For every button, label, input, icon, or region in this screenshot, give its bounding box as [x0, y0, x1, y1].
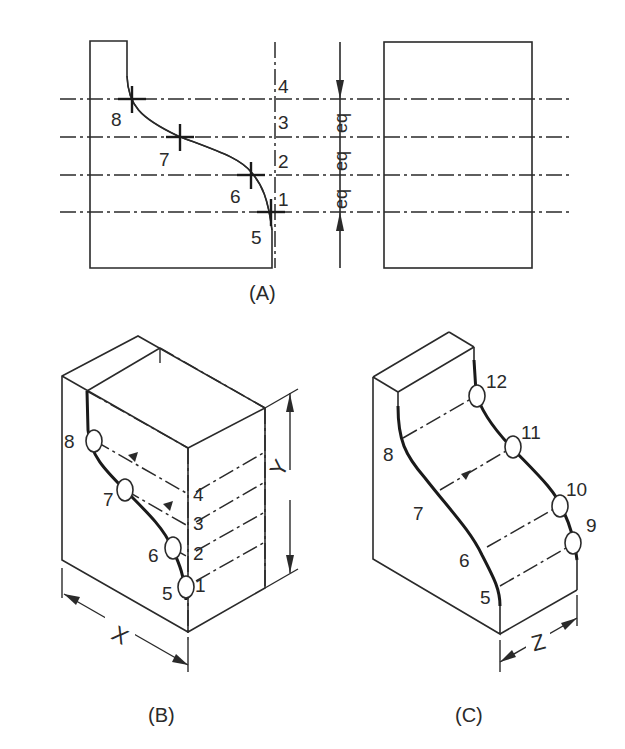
view-a-mark-3: 3 [278, 112, 289, 133]
view-a: 8 7 6 5 4 3 2 1 eq eq eq (A) [60, 41, 572, 304]
view-b-mark-3: 3 [193, 513, 204, 534]
caption-b: (B) [148, 704, 175, 726]
arrow-up-icon [336, 212, 344, 231]
arrow-left-icon [500, 650, 516, 662]
view-b-point-5: 5 [162, 583, 173, 604]
view-a-mark-4: 4 [278, 76, 289, 97]
arrow-right-icon [461, 470, 471, 480]
view-c-point-5: 5 [480, 587, 491, 608]
arrow-right-icon [172, 654, 188, 665]
point-marker-8 [86, 430, 102, 452]
arrow-down-icon [286, 555, 294, 573]
point-marker-7 [117, 479, 133, 501]
caption-a: (A) [249, 282, 276, 304]
view-a-mark-1: 1 [278, 189, 289, 210]
view-a-point-8: 8 [111, 109, 122, 130]
eq-label-top: eq [331, 113, 351, 133]
view-c-point-12: 12 [486, 371, 507, 392]
cross-markers [118, 86, 285, 226]
view-b-point-8: 8 [64, 431, 75, 452]
technical-drawing: 8 7 6 5 4 3 2 1 eq eq eq (A) [0, 0, 625, 749]
view-b-point-7: 7 [103, 489, 114, 510]
view-b-mark-1: 1 [195, 575, 206, 596]
view-a-front-outline [90, 41, 272, 268]
view-c: 8 7 6 5 12 11 10 9 Z (C) [373, 332, 597, 726]
view-b: 8 7 6 5 4 3 2 1 Y X (B) [62, 336, 298, 726]
view-a-mark-2: 2 [278, 151, 289, 172]
view-c-point-10: 10 [566, 479, 587, 500]
view-b-mark-2: 2 [193, 543, 204, 564]
arrow-left-icon [64, 594, 80, 605]
view-b-point-6: 6 [148, 545, 159, 566]
arrow-left-icon [163, 501, 173, 511]
view-b-curve [87, 391, 186, 600]
view-c-point-7: 7 [413, 503, 424, 524]
view-c-point-6: 6 [459, 550, 470, 571]
point-marker-6 [165, 537, 181, 559]
view-a-point-5: 5 [251, 227, 262, 248]
arrow-down-icon [336, 80, 344, 99]
caption-c: (C) [455, 704, 483, 726]
arrow-up-icon [286, 394, 294, 412]
point-marker-9 [565, 532, 581, 554]
arrow-right-icon [561, 618, 577, 630]
view-a-side-outline [384, 42, 532, 268]
view-a-point-6: 6 [230, 186, 241, 207]
point-marker-11 [505, 436, 521, 458]
eq-label-bottom: eq [331, 189, 351, 209]
view-b-mark-4: 4 [193, 484, 204, 505]
view-c-point-11: 11 [521, 422, 541, 443]
point-marker-5 [178, 576, 194, 598]
view-c-point-9: 9 [586, 515, 597, 536]
view-c-point-8: 8 [383, 444, 394, 465]
eq-label-middle: eq [331, 151, 351, 171]
point-marker-12 [469, 385, 485, 407]
view-a-point-7: 7 [159, 149, 170, 170]
